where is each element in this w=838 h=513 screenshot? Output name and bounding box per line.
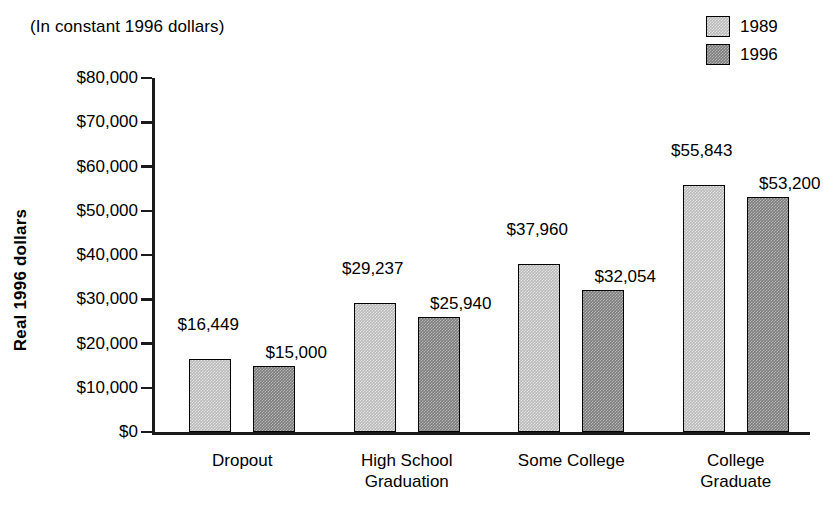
y-axis-tick-label: $0	[119, 422, 138, 442]
legend-swatch-1989	[706, 16, 730, 37]
y-axis-tick	[141, 387, 152, 390]
bar-1996-3	[747, 197, 789, 432]
y-axis-title-text: Real 1996 dollars	[11, 209, 31, 351]
bar-chart-figure: (In constant 1996 dollars) 1989 1996 Rea…	[0, 0, 838, 513]
y-axis-tick	[141, 254, 152, 257]
y-axis-tick-label: $30,000	[77, 289, 138, 309]
x-axis-category-label: High School Graduation	[361, 450, 453, 493]
legend-label-1989: 1989	[740, 18, 778, 35]
plot-area: $80,000$70,000$60,000$50,000$40,000$30,0…	[152, 78, 810, 432]
bar-1989-2	[518, 264, 560, 432]
legend-item-1989: 1989	[706, 12, 778, 40]
y-axis-tick-label: $40,000	[77, 245, 138, 265]
value-label-1996-0: $15,000	[266, 343, 327, 363]
y-axis-tick-label: $50,000	[77, 201, 138, 221]
value-label-1996-2: $32,054	[595, 267, 656, 287]
x-axis-category-label: Dropout	[212, 450, 272, 471]
y-axis-line	[152, 78, 155, 432]
y-axis-tick	[141, 210, 152, 213]
chart-subtitle: (In constant 1996 dollars)	[30, 17, 224, 37]
x-axis-category-label: College Graduate	[700, 450, 771, 493]
chart-legend: 1989 1996	[706, 12, 778, 68]
value-label-1989-2: $37,960	[507, 220, 568, 240]
bar-1989-3	[683, 185, 725, 432]
y-axis-tick	[141, 342, 152, 345]
y-axis-tick	[141, 121, 152, 124]
bar-1989-0	[189, 359, 231, 432]
x-axis-category-label: Some College	[518, 450, 625, 471]
value-label-1996-1: $25,940	[430, 294, 491, 314]
bar-1996-0	[253, 366, 295, 432]
x-axis-line	[152, 432, 810, 435]
bar-1996-2	[582, 290, 624, 432]
value-label-1989-1: $29,237	[342, 259, 403, 279]
y-axis-tick-label: $70,000	[77, 112, 138, 132]
y-axis-tick	[141, 165, 152, 168]
legend-item-1996: 1996	[706, 40, 778, 68]
y-axis-tick	[141, 431, 152, 434]
y-axis-tick-label: $60,000	[77, 157, 138, 177]
y-axis-tick-label: $80,000	[77, 68, 138, 88]
value-label-1989-3: $55,843	[671, 141, 732, 161]
value-label-1989-0: $16,449	[178, 315, 239, 335]
bar-1989-1	[354, 303, 396, 432]
y-axis-tick-label: $10,000	[77, 378, 138, 398]
legend-swatch-1996	[706, 44, 730, 65]
y-axis-tick	[141, 298, 152, 301]
y-axis-tick	[141, 77, 152, 80]
y-axis-title: Real 1996 dollars	[4, 170, 38, 390]
legend-label-1996: 1996	[740, 46, 778, 63]
bar-1996-1	[418, 317, 460, 432]
y-axis-tick-label: $20,000	[77, 334, 138, 354]
value-label-1996-3: $53,200	[759, 174, 820, 194]
